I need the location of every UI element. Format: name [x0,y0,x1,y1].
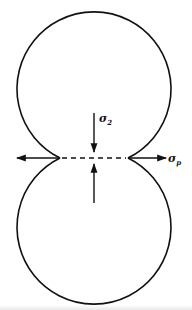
stress-diagram: σ2 σp [0,0,192,310]
sigma-2-label: σ2 [99,112,112,127]
cropped-caption-band [0,305,192,310]
sigma-p-label: σp [168,152,181,167]
